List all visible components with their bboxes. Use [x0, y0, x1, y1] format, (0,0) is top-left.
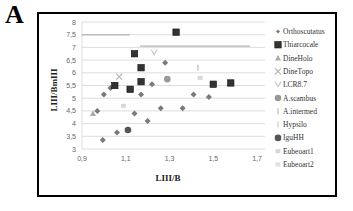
x-tick-label: 1,5: [208, 155, 218, 162]
circle-marker-icon: [164, 76, 171, 83]
y-tick-label: 5: [72, 95, 76, 102]
legend-item: DineHolo: [275, 54, 313, 63]
y-tick-label: 3: [72, 146, 76, 153]
legend-item: LCR8.7: [275, 80, 307, 89]
x-axis-ticks: 0,91,11,31,51,7: [77, 155, 262, 162]
v-marker-icon: [275, 82, 281, 87]
square-marker-icon: [276, 149, 281, 153]
series-thiarcocale: [112, 29, 234, 93]
y-tick-label: 6: [72, 69, 76, 76]
legend-item-label: A.scambus: [283, 94, 316, 103]
diamond-marker-icon: [206, 94, 212, 100]
legend-item-label: DineHolo: [283, 54, 313, 63]
diamond-marker-icon: [276, 30, 280, 34]
series-iguhh: [125, 127, 132, 134]
legend-item-label: Thiarcocale: [283, 40, 319, 49]
series-orthoscutatus: [94, 60, 212, 143]
x-tick-label: 1,7: [252, 155, 262, 162]
square-marker-icon: [127, 86, 133, 92]
square-marker-icon: [138, 78, 144, 84]
y-tick-label: 7,5: [66, 31, 76, 38]
legend: OrthoscutatusThiarcocaleDineHoloDineTopo…: [275, 27, 325, 169]
legend-item: DineTopo: [275, 67, 313, 76]
square-marker-icon: [228, 80, 234, 86]
square-marker-icon: [131, 51, 137, 57]
circle-marker-icon: [125, 127, 132, 134]
y-axis-label: LIII/BmIII: [49, 68, 59, 112]
gridlines: [82, 22, 265, 149]
scatter-chart: 33,544,555,566,577,58 0,91,11,31,51,7 LI…: [0, 0, 353, 211]
y-tick-label: 6,5: [66, 57, 76, 64]
legend-item: Hypsilo: [278, 120, 307, 129]
legend-item-label: Eubeoart1: [283, 147, 314, 156]
diamond-marker-icon: [162, 60, 168, 66]
legend-item: Orthoscutatus: [276, 27, 325, 36]
diamond-marker-icon: [132, 110, 138, 116]
legend-item: A.scambus: [275, 94, 317, 103]
x-tick-label: 1,3: [165, 155, 175, 162]
y-tick-label: 4,5: [66, 107, 76, 114]
diamond-marker-icon: [94, 108, 100, 114]
diamond-marker-icon: [114, 129, 120, 135]
square-marker-icon: [276, 163, 281, 167]
series-a-scambus: [164, 76, 171, 83]
v-marker-icon: [151, 49, 157, 54]
x-marker-icon: [275, 68, 281, 74]
triangle-marker-icon: [275, 55, 281, 61]
diamond-marker-icon: [100, 137, 106, 143]
square-marker-icon: [198, 76, 203, 80]
y-tick-label: 8: [72, 19, 76, 26]
square-marker-icon: [138, 65, 144, 71]
series-dinetopo: [116, 74, 122, 80]
circle-marker-icon: [275, 95, 282, 102]
legend-item: Thiarcocale: [275, 40, 319, 49]
legend-item-label: A.intermed: [283, 107, 317, 116]
diamond-marker-icon: [180, 105, 186, 111]
legend-item-label: Orthoscutatus: [283, 27, 325, 36]
square-marker-icon: [210, 81, 216, 87]
diamond-marker-icon: [191, 91, 197, 97]
y-axis-ticks: 33,544,555,566,577,58: [66, 19, 76, 153]
circle-marker-icon: [275, 135, 282, 142]
legend-item: A.intermed: [278, 107, 317, 116]
square-marker-icon: [121, 104, 126, 108]
square-marker-icon: [112, 82, 118, 88]
x-tick-label: 0,9: [77, 155, 87, 162]
legend-item-label: Hypsilo: [283, 120, 307, 129]
y-tick-label: 4: [72, 120, 76, 127]
x-marker-icon: [116, 74, 122, 80]
legend-item-label: DineTopo: [283, 67, 313, 76]
legend-item-label: LCR8.7: [283, 80, 307, 89]
square-marker-icon: [275, 42, 281, 48]
y-tick-label: 7: [72, 44, 76, 51]
diamond-marker-icon: [138, 91, 144, 97]
diamond-marker-icon: [145, 118, 151, 124]
y-tick-label: 3,5: [66, 133, 76, 140]
diamond-marker-icon: [101, 91, 107, 97]
y-tick-label: 5,5: [66, 82, 76, 89]
x-tick-label: 1,1: [121, 155, 131, 162]
diamond-marker-icon: [149, 81, 155, 87]
legend-item: Eubeoart1: [276, 147, 315, 156]
legend-item-label: IguHH: [283, 133, 304, 142]
diamond-marker-icon: [158, 105, 164, 111]
square-marker-icon: [173, 29, 179, 35]
legend-item-label: Eubeoart2: [283, 160, 314, 169]
legend-item: IguHH: [275, 133, 305, 142]
x-axis-label: LIII/B: [155, 173, 180, 183]
legend-item: Eubeoart2: [276, 160, 315, 169]
series-lcr8-7: [151, 49, 157, 54]
